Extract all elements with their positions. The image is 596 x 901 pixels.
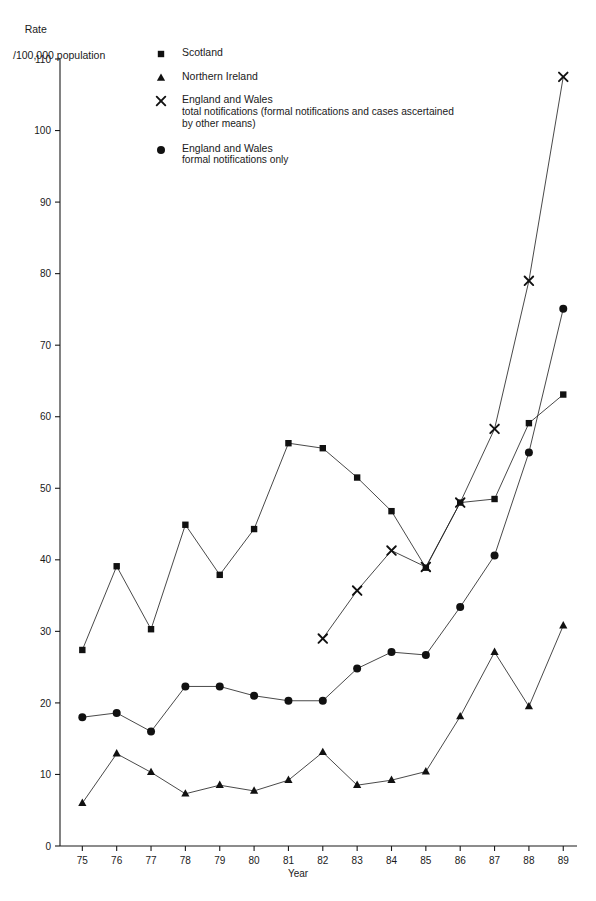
data-point-circle: [250, 692, 258, 700]
data-point-triangle: [284, 776, 292, 783]
x-axis-tick-label: 82: [317, 855, 329, 866]
data-point-circle: [181, 682, 189, 690]
y-axis-tick-label: 70: [40, 340, 52, 351]
data-point-circle: [147, 728, 155, 736]
series-line-circle: [82, 309, 563, 732]
data-point-square: [182, 522, 188, 528]
data-point-cross: [525, 276, 534, 285]
y-axis-tick-label: 90: [40, 197, 52, 208]
series-line-triangle: [82, 626, 563, 803]
data-point-square: [113, 563, 119, 569]
x-axis-tick-label: 89: [558, 855, 570, 866]
x-axis-tick-label: 78: [180, 855, 192, 866]
data-point-square: [354, 474, 360, 480]
data-point-triangle: [490, 648, 498, 655]
y-axis-tick-label: 100: [34, 125, 51, 136]
y-axis-tick-label: 0: [45, 841, 51, 852]
x-axis-tick-label: 84: [386, 855, 398, 866]
data-point-triangle: [525, 702, 533, 709]
x-axis-tick-label: 88: [523, 855, 535, 866]
data-point-cross: [387, 546, 396, 555]
data-point-square: [285, 440, 291, 446]
x-axis-tick-label: 85: [420, 855, 432, 866]
data-point-circle: [284, 697, 292, 705]
data-point-triangle: [559, 621, 567, 628]
chart-figure: Rate /100,000 population ScotlandNorther…: [0, 0, 596, 901]
data-point-circle: [216, 682, 224, 690]
y-axis-tick-label: 80: [40, 268, 52, 279]
x-axis-tick-label: 87: [489, 855, 501, 866]
data-point-triangle: [113, 749, 121, 756]
data-point-triangle: [147, 768, 155, 775]
data-point-square: [491, 496, 497, 502]
x-axis-title: Year: [0, 868, 596, 879]
y-axis-tick-label: 40: [40, 554, 52, 565]
data-point-square: [560, 391, 566, 397]
data-point-square: [320, 445, 326, 451]
data-point-triangle: [422, 767, 430, 774]
x-axis-tick-label: 79: [214, 855, 226, 866]
data-point-circle: [422, 651, 430, 659]
data-point-circle: [559, 305, 567, 313]
data-point-square: [526, 420, 532, 426]
data-point-circle: [456, 603, 464, 611]
data-point-circle: [353, 665, 361, 673]
x-axis-tick-label: 83: [352, 855, 364, 866]
data-point-square: [251, 526, 257, 532]
y-axis-tick-label: 30: [40, 626, 52, 637]
data-point-square: [79, 647, 85, 653]
data-point-square: [148, 626, 154, 632]
x-axis-tick-label: 77: [145, 855, 157, 866]
y-axis-tick-label: 10: [40, 769, 52, 780]
series-line-cross: [323, 77, 563, 639]
data-point-circle: [78, 713, 86, 721]
data-point-triangle: [353, 781, 361, 788]
data-point-cross: [490, 425, 499, 434]
x-axis-tick-label: 75: [77, 855, 89, 866]
data-point-circle: [491, 552, 499, 560]
data-point-triangle: [319, 748, 327, 755]
data-point-circle: [387, 648, 395, 656]
y-axis-tick-label: 60: [40, 411, 52, 422]
data-point-cross: [318, 634, 327, 643]
data-point-triangle: [216, 781, 224, 788]
data-point-square: [388, 508, 394, 514]
data-point-circle: [525, 449, 533, 457]
x-axis-tick-label: 80: [249, 855, 261, 866]
y-axis-tick-label: 110: [35, 54, 51, 65]
data-point-cross: [559, 73, 568, 82]
y-axis-tick-label: 20: [40, 698, 52, 709]
data-point-cross: [353, 586, 362, 595]
data-point-triangle: [456, 712, 464, 719]
data-point-circle: [319, 697, 327, 705]
data-point-circle: [113, 709, 121, 717]
data-point-square: [217, 572, 223, 578]
x-axis-tick-label: 81: [283, 855, 295, 866]
line-chart-plot: 0102030405060708090100110757677787980818…: [0, 0, 596, 901]
x-axis-tick-label: 86: [455, 855, 467, 866]
x-axis-tick-label: 76: [111, 855, 123, 866]
y-axis-tick-label: 50: [40, 483, 52, 494]
